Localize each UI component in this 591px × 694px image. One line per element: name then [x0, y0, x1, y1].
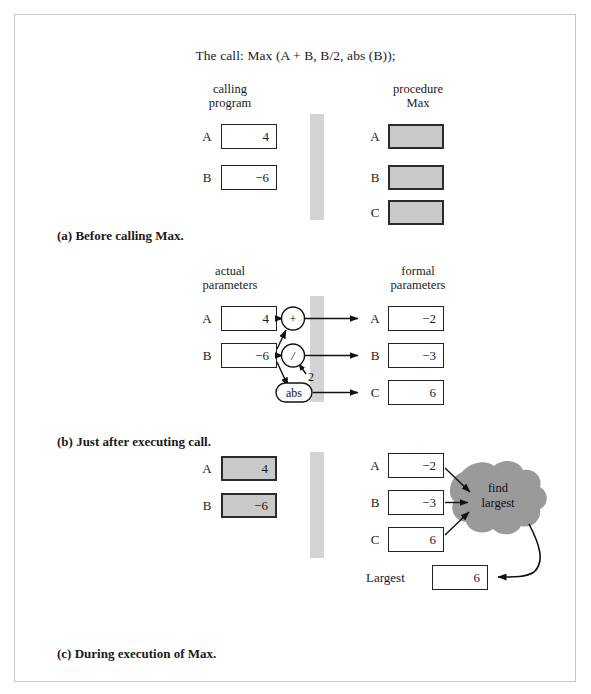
panel-a-right-label-c: C — [364, 200, 386, 225]
panel-a-caption: (a) Before calling Max. — [44, 212, 184, 260]
panel-b-left-header: actual parameters — [180, 264, 280, 292]
panel-c-divider — [310, 452, 324, 558]
panel-b-left-label-a: A — [196, 306, 218, 331]
panel-b-caption-letter: (b) — [57, 434, 73, 449]
panel-c-caption-letter: (c) — [57, 646, 71, 661]
panel-c-result-box: 6 — [432, 565, 488, 590]
panel-a-right-box-c — [388, 200, 444, 225]
panel-a-right-header: procedure Max — [368, 82, 468, 110]
panel-a-left-box-a: 4 — [221, 124, 277, 149]
panel-c-right-label-c: C — [364, 527, 386, 552]
panel-a-left-label-a: A — [196, 124, 218, 149]
panel-b-caption: (b) Just after executing call. — [44, 418, 211, 466]
panel-b-right-header: formal parameters — [368, 264, 468, 292]
panel-c-right-label-a: A — [364, 453, 386, 478]
panel-c-result-label: Largest — [366, 565, 426, 590]
page-border — [14, 14, 576, 682]
panel-a-right-box-a — [388, 124, 444, 149]
panel-b-right-label-a: A — [364, 306, 386, 331]
panel-c-caption: (c) During execution of Max. — [44, 630, 216, 678]
panel-c-left-label-b: B — [196, 493, 218, 518]
panel-a-right-label-b: B — [364, 165, 386, 190]
panel-a-right-label-a: A — [364, 124, 386, 149]
panel-c-right-box-a: −2 — [388, 453, 444, 478]
panel-c-caption-text: During execution of Max. — [75, 646, 217, 661]
panel-a-left-label-b: B — [196, 165, 218, 190]
panel-c-right-label-b: B — [364, 490, 386, 515]
panel-b-right-box-b: −3 — [388, 343, 444, 368]
panel-b-left-label-b: B — [196, 343, 218, 368]
panel-a-left-header: calling program — [180, 82, 280, 110]
panel-b-left-box-b: −6 — [221, 343, 277, 368]
panel-a-left-box-b: −6 — [221, 165, 277, 190]
figure-page: The call: Max (A + B, B/2, abs (B)); cal… — [0, 0, 591, 694]
panel-b-right-box-c: 6 — [388, 380, 444, 405]
panel-a-right-box-b — [388, 165, 444, 190]
panel-a-caption-letter: (a) — [57, 228, 72, 243]
panel-c-right-box-c: 6 — [388, 527, 444, 552]
panel-b-divider — [310, 296, 324, 402]
call-title: The call: Max (A + B, B/2, abs (B)); — [0, 48, 591, 64]
panel-c-left-label-a: A — [196, 456, 218, 481]
panel-a-caption-text: Before calling Max. — [75, 228, 183, 243]
panel-c-left-box-b: −6 — [221, 493, 277, 518]
panel-c-left-box-a: 4 — [221, 456, 277, 481]
panel-b-left-box-a: 4 — [221, 306, 277, 331]
panel-c-right-box-b: −3 — [388, 490, 444, 515]
panel-b-right-label-b: B — [364, 343, 386, 368]
panel-b-right-box-a: −2 — [388, 306, 444, 331]
panel-b-caption-text: Just after executing call. — [76, 434, 211, 449]
panel-a-divider — [310, 114, 324, 220]
panel-b-right-label-c: C — [364, 380, 386, 405]
